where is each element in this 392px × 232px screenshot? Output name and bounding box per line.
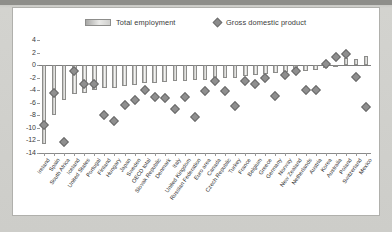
x-axis-tick-mark — [356, 153, 357, 156]
bar-united-kingdom — [183, 65, 188, 81]
gdp-marker-portugal — [89, 79, 99, 89]
gdp-marker-mexico — [361, 102, 371, 112]
gdp-marker-united-states — [79, 79, 89, 89]
gdp-marker-finland — [99, 110, 109, 120]
bar-turkey — [233, 65, 238, 78]
legend-label-total-employment: Total employment — [116, 18, 176, 27]
y-axis-tick-label: -14 — [14, 149, 36, 156]
gdp-marker-spain — [49, 88, 59, 98]
gdp-marker-belgium — [250, 79, 260, 89]
x-axis-tick-mark — [215, 153, 216, 156]
x-axis-tick-mark — [366, 153, 367, 156]
y-axis-tick-mark — [37, 140, 40, 141]
y-axis-tick-label: 4 — [14, 36, 36, 43]
x-axis-tick-mark — [245, 153, 246, 156]
y-axis-tick-label: -6 — [14, 98, 36, 105]
bar-denmark — [162, 65, 167, 82]
diamond-marker-icon — [213, 18, 223, 28]
x-axis-tick-mark — [94, 153, 95, 156]
gdp-marker-slovak-republic — [150, 92, 160, 102]
bar-sweden — [132, 65, 137, 85]
bar-euro-area — [203, 65, 208, 79]
x-axis-tick-mark — [296, 153, 297, 156]
legend-item-total-employment: Total employment — [85, 18, 176, 27]
x-axis-tick-mark — [114, 153, 115, 156]
legend-label-gdp: Gross domestic product — [226, 18, 306, 27]
bar-russian-federation — [193, 65, 198, 80]
plot-area: 420-2-4-6-8-10-12-14IrelandSpainSouth Af… — [39, 40, 371, 153]
x-axis-tick-mark — [336, 153, 337, 156]
gdp-marker-switzerland — [351, 72, 361, 82]
gdp-marker-france — [240, 76, 250, 86]
x-axis-tick-mark — [135, 153, 136, 156]
x-axis-tick-mark — [285, 153, 286, 156]
chart-plate: Total employment Gross domestic product … — [13, 8, 379, 215]
gdp-marker-russian-federation — [190, 112, 200, 122]
bar-ireland — [42, 65, 47, 144]
x-axis-tick-mark — [255, 153, 256, 156]
y-axis-tick-label: -8 — [14, 111, 36, 118]
bar-south-africa — [62, 65, 67, 100]
x-axis-tick-mark — [195, 153, 196, 156]
bar-australia — [333, 65, 338, 67]
window-frame: Total employment Gross domestic product … — [0, 0, 392, 232]
bar-france — [243, 65, 248, 76]
x-axis-tick-mark — [64, 153, 65, 156]
gdp-marker-italy — [170, 104, 180, 114]
x-axis-tick-mark — [326, 153, 327, 156]
y-axis-tick-mark — [37, 78, 40, 79]
gdp-marker-turkey — [230, 101, 240, 111]
bar-czech-republic — [223, 65, 228, 78]
y-axis-tick-mark — [37, 128, 40, 129]
bar-germany — [273, 65, 278, 73]
gdp-marker-south-africa — [59, 137, 69, 147]
x-axis-tick-mark — [54, 153, 55, 156]
bar-japan — [122, 65, 127, 86]
x-axis-tick-mark — [155, 153, 156, 156]
bar-poland — [344, 58, 349, 65]
x-axis-tick-mark — [125, 153, 126, 156]
x-axis-tick-mark — [306, 153, 307, 156]
gdp-marker-iceland — [69, 66, 79, 76]
gdp-marker-austria — [311, 85, 321, 95]
bar-slovak-republic — [152, 65, 157, 83]
x-axis-tick-mark — [175, 153, 176, 156]
bar-oecd-total — [142, 65, 147, 83]
bar-hungary — [112, 65, 117, 88]
y-axis-tick-mark — [37, 40, 40, 41]
gdp-marker-ireland — [39, 120, 49, 130]
x-axis-tick-mark — [225, 153, 226, 156]
y-axis-tick-label: -4 — [14, 86, 36, 93]
x-axis-tick-mark — [265, 153, 266, 156]
y-axis-tick-label: 0 — [14, 61, 36, 68]
gdp-marker-oecd-total — [140, 85, 150, 95]
x-axis-tick-mark — [316, 153, 317, 156]
y-axis-tick-label: -12 — [14, 136, 36, 143]
y-axis-tick-mark — [37, 115, 40, 116]
x-axis-tick-mark — [74, 153, 75, 156]
gdp-marker-euro-area — [200, 87, 210, 97]
bar-austria — [313, 65, 318, 69]
bar-swatch-icon — [85, 19, 111, 26]
gdp-marker-greece — [260, 73, 270, 83]
bar-italy — [173, 65, 178, 81]
bar-switzerland — [354, 59, 359, 65]
x-axis-tick-mark — [145, 153, 146, 156]
x-axis-tick-mark — [346, 153, 347, 156]
y-axis-tick-label: -10 — [14, 123, 36, 130]
y-axis-tick-label: 2 — [14, 48, 36, 55]
gdp-marker-netherlands — [301, 85, 311, 95]
gdp-marker-denmark — [160, 93, 170, 103]
bar-finland — [102, 65, 107, 88]
bar-netherlands — [303, 65, 308, 71]
x-axis-tick-mark — [44, 153, 45, 156]
x-axis-tick-mark — [104, 153, 105, 156]
x-axis-tick-mark — [235, 153, 236, 156]
gdp-marker-united-kingdom — [180, 92, 190, 102]
x-axis-tick-mark — [275, 153, 276, 156]
gdp-marker-new-zealand — [291, 66, 301, 76]
bar-belgium — [253, 65, 258, 75]
gdp-marker-poland — [341, 49, 351, 59]
x-axis-tick-mark — [185, 153, 186, 156]
gdp-marker-japan — [120, 100, 130, 110]
